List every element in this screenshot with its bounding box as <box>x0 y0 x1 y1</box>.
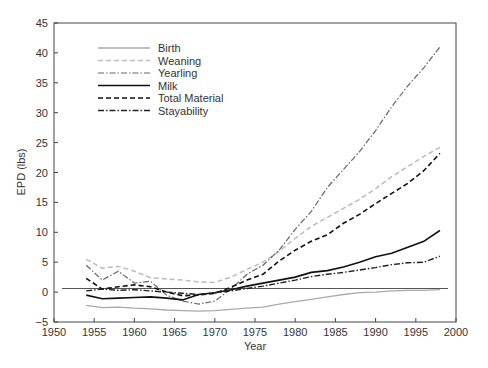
legend-label: Weaning <box>158 55 201 67</box>
x-tick-label: 1980 <box>283 326 307 338</box>
y-tick-label: −5 <box>35 316 48 328</box>
x-tick-label: 1985 <box>323 326 347 338</box>
x-tick-label: 1990 <box>363 326 387 338</box>
x-tick-label: 1965 <box>162 326 186 338</box>
legend-label: Yearling <box>158 67 197 79</box>
legend-label: Stayability <box>158 105 209 117</box>
y-tick-label: 15 <box>36 196 48 208</box>
y-tick-label: 25 <box>36 137 48 149</box>
x-tick-label: 2000 <box>444 326 468 338</box>
x-tick-label: 1960 <box>122 326 146 338</box>
line-chart: 1950195519601965197019751980198519901995… <box>0 0 488 368</box>
legend-label: Milk <box>158 80 178 92</box>
x-tick-label: 1955 <box>82 326 106 338</box>
y-tick-label: 30 <box>36 107 48 119</box>
y-axis-title: EPD (lbs) <box>15 148 27 195</box>
plot-lines <box>62 47 448 311</box>
x-tick-label: 1975 <box>243 326 267 338</box>
y-tick-label: 20 <box>36 167 48 179</box>
series-birth <box>86 290 440 312</box>
x-tick-label: 1970 <box>203 326 227 338</box>
legend: BirthWeaningYearlingMilkTotal MaterialSt… <box>98 42 223 117</box>
x-tick-label: 1995 <box>404 326 428 338</box>
legend-label: Birth <box>158 42 181 54</box>
y-tick-label: 0 <box>42 286 48 298</box>
legend-label: Total Material <box>158 92 223 104</box>
y-tick-label: 40 <box>36 47 48 59</box>
y-tick-label: 45 <box>36 17 48 29</box>
y-tick-label: 5 <box>42 256 48 268</box>
y-tick-label: 35 <box>36 77 48 89</box>
series-weaning <box>86 147 440 282</box>
series-total-material <box>86 153 440 295</box>
y-tick-label: 10 <box>36 226 48 238</box>
x-axis-title: Year <box>244 340 267 352</box>
